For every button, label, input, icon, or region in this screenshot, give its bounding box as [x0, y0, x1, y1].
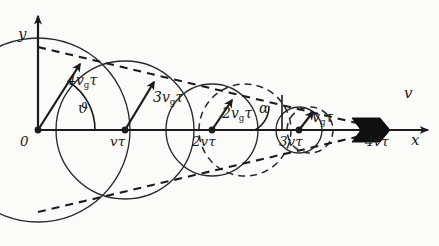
- vector-label-4vgtau-base: 4v: [67, 72, 84, 88]
- velocity-label: v: [404, 86, 412, 101]
- tick-label-4vtau: 4vτ: [365, 135, 389, 149]
- vector-label-3vgtau-tail: τ: [175, 89, 183, 105]
- angle-label-theta: ϑ: [78, 101, 88, 115]
- angle-label-alpha: α: [259, 101, 268, 115]
- tick-label-vtau: vτ: [110, 135, 125, 149]
- tick-label-3vtau: 3vτ: [279, 135, 303, 149]
- vector-label-vgtau-tail: τ: [325, 109, 333, 125]
- vector-label-3vgtau-base: 3v: [153, 89, 170, 105]
- tick-label-2vtau: 2vτ: [192, 135, 216, 149]
- vector-label-2vgtau-tail: τ: [244, 105, 252, 121]
- y-axis-label: y: [18, 27, 26, 42]
- vector-label-2vgtau: 2vgτ: [222, 106, 252, 122]
- vector-label-vgtau-base: v: [312, 109, 320, 125]
- vector-vgtau: [299, 112, 313, 130]
- vector-label-4vgtau-tail: τ: [89, 72, 97, 88]
- vector-3vgtau: [125, 82, 154, 130]
- vector-label-4vgtau: 4vgτ: [67, 73, 97, 89]
- figure-canvas: y v x 0 vτ 2vτ 3vτ 4vτ 4vgτ 3vgτ 2vgτ vg…: [0, 0, 439, 246]
- vector-label-vgtau: vgτ: [312, 110, 333, 126]
- huygens-construction-svg: [0, 0, 439, 246]
- x-axis-label: x: [411, 133, 419, 148]
- vector-label-2vgtau-base: 2v: [222, 105, 239, 121]
- tick-label-origin: 0: [20, 135, 29, 149]
- vector-label-3vgtau: 3vgτ: [153, 90, 183, 106]
